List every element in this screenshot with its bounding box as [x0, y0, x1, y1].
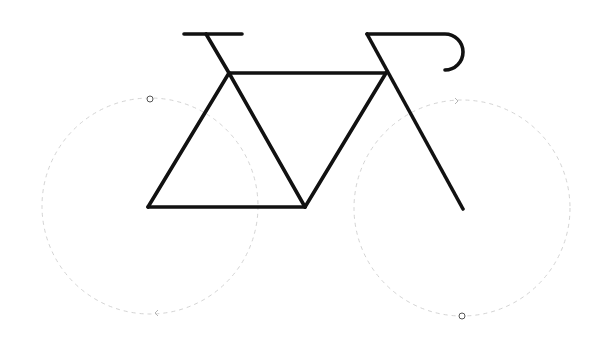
- seat-post: [206, 34, 229, 73]
- bicycle-diagram: [0, 0, 604, 342]
- front-wheel-handle[interactable]: [459, 313, 465, 319]
- seat-stay: [148, 73, 229, 207]
- front-wheel-arrow-icon: [455, 98, 458, 104]
- rear-wheel-handle[interactable]: [147, 96, 153, 102]
- frame-group: [148, 34, 463, 209]
- seat-tube: [229, 73, 305, 207]
- handlebar: [367, 34, 463, 70]
- down-tube: [305, 73, 386, 207]
- fork: [367, 34, 463, 209]
- rear-wheel-arrow-icon: [155, 310, 158, 316]
